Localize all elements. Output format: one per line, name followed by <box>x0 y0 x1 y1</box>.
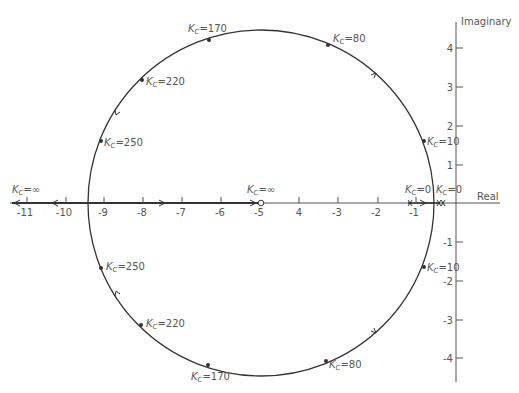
root-locus-plot: -11 -10 -9 -8 -7 -6 -5 4 -3 -2 -1 4 3 2 … <box>0 0 519 393</box>
x-tick-label: -10 <box>56 207 72 218</box>
kc-label-upper-10: KC=10 <box>427 136 460 149</box>
y-tick-label: -2 <box>443 276 453 287</box>
y-tick-label: 1 <box>447 160 453 171</box>
open-loop-zero <box>258 200 264 206</box>
kc-label-lower-80: KC=80 <box>329 359 362 372</box>
y-tick-label: -4 <box>443 353 453 364</box>
y-tick-label: 2 <box>447 121 453 132</box>
arrow-icon <box>115 110 120 115</box>
y-tick-label: -3 <box>443 315 453 326</box>
kc-label-inf-left: KC=∞ <box>12 184 40 197</box>
kc-label-lower-250: KC=250 <box>106 261 145 274</box>
x-tick-label: -3 <box>332 207 342 218</box>
kc-label-lower-170: KC=170 <box>191 371 230 384</box>
x-tick-label: -8 <box>137 207 147 218</box>
x-tick-label: -6 <box>215 207 225 218</box>
arrow-icon <box>371 328 376 333</box>
y-tick-label: 3 <box>447 82 453 93</box>
y-tick-label: 4 <box>447 43 453 54</box>
x-tick-label: -1 <box>409 207 419 218</box>
kc-label-upper-250: KC=250 <box>104 137 143 150</box>
imaginary-axis-title: Imaginary <box>461 16 512 27</box>
arrow-icon <box>371 73 376 78</box>
x-tick-label: -9 <box>98 207 108 218</box>
x-tick-label: -7 <box>176 207 186 218</box>
real-axis-tick-labels: -11 -10 -9 -8 -7 -6 -5 4 -3 -2 -1 <box>17 207 419 218</box>
kc-label-inf-mid: KC=∞ <box>247 184 275 197</box>
y-tick-label: -1 <box>443 237 453 248</box>
x-tick-label: -2 <box>371 207 381 218</box>
kc-label-zero-a: KC=0 <box>405 184 431 197</box>
x-tick-label: 4 <box>296 207 302 218</box>
kc-label-lower-220: KC=220 <box>146 318 185 331</box>
kc-label-zero-b: KC=0 <box>436 184 462 197</box>
kc-label-upper-220: KC=220 <box>146 76 185 89</box>
arrow-icon <box>115 291 120 296</box>
real-axis-title: Real <box>477 191 499 202</box>
kc-label-upper-80: KC=80 <box>333 33 366 46</box>
x-tick-label: -5 <box>254 207 264 218</box>
x-tick-label: -11 <box>17 207 33 218</box>
kc-label-lower-10: KC=10 <box>427 262 460 275</box>
